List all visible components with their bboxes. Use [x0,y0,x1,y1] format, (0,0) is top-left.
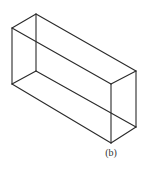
edge-CG [12,84,111,143]
edge-AE [36,14,136,71]
figure-caption: (b) [96,147,126,158]
edge-AB [12,14,36,28]
edge-CD [12,71,36,84]
box-figure: (b) [0,0,148,170]
edge-GH [111,127,136,143]
wireframe-box [0,0,148,170]
edge-EF [111,71,136,84]
